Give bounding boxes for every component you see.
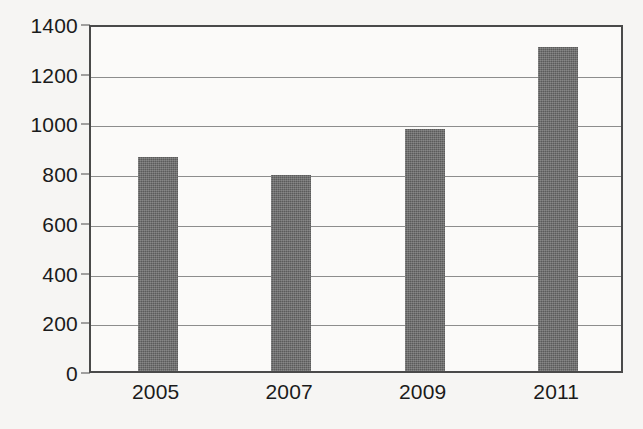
y-axis: 0200400600800100012001400 <box>0 0 78 429</box>
bar <box>271 175 311 371</box>
y-tick-label: 0 <box>0 363 78 384</box>
x-tick-label: 2005 <box>132 381 180 402</box>
bar <box>138 157 178 371</box>
bar <box>405 129 445 371</box>
x-tick-label: 2009 <box>399 381 447 402</box>
y-tick-label: 1000 <box>0 114 78 135</box>
bar <box>538 47 578 371</box>
plot-area <box>89 25 623 373</box>
y-tick-label: 600 <box>0 213 78 234</box>
x-tick-label: 2011 <box>533 381 579 402</box>
y-tick-label: 200 <box>0 313 78 334</box>
x-tick-label: 2007 <box>265 381 313 402</box>
bar-chart: 0200400600800100012001400 20052007200920… <box>0 0 643 429</box>
y-tick-label: 1400 <box>0 15 78 36</box>
y-tick-label: 400 <box>0 263 78 284</box>
y-tick-label: 800 <box>0 164 78 185</box>
x-axis: 2005200720092011 <box>89 381 623 415</box>
y-tick-label: 1200 <box>0 64 78 85</box>
